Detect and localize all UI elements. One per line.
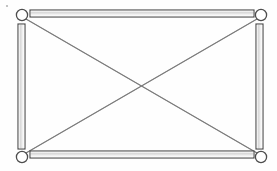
member-left-post [18, 24, 25, 149]
member-top-chord [30, 10, 254, 17]
frame-diagram-figure [0, 0, 277, 171]
joint-pin-top-left [16, 9, 27, 20]
member-top-chord-shading [31, 11, 253, 16]
member-left-post-shading [19, 25, 24, 148]
scan-artifact-speck-icon [6, 5, 8, 7]
member-bottom-chord [30, 151, 254, 158]
paper-background [0, 0, 277, 171]
frame-diagram-canvas [0, 0, 277, 171]
member-right-post [256, 24, 263, 149]
joint-pin-bottom-right [255, 151, 266, 162]
member-bottom-chord-shading [31, 152, 253, 157]
member-right-post-shading [257, 25, 262, 148]
joint-pin-top-right [255, 9, 266, 20]
joint-pin-bottom-left [16, 151, 27, 162]
